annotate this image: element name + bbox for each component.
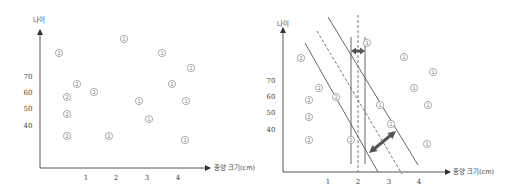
svg-text:2: 2 <box>307 97 310 103</box>
svg-text:2: 2 <box>307 137 310 143</box>
class-1-marker: 1 <box>187 64 194 71</box>
svg-text:2: 2 <box>299 55 302 61</box>
class-1-marker: 1 <box>387 120 394 127</box>
diagonal-margin-line-lower <box>305 43 378 172</box>
class-2-marker: 2 <box>63 110 70 117</box>
class-2-marker: 2 <box>305 96 312 103</box>
class-1-marker: 1 <box>423 140 430 147</box>
class-1-marker: 1 <box>363 39 370 46</box>
y-tick-label: 60 <box>267 93 276 101</box>
svg-text:1: 1 <box>378 102 381 108</box>
svg-text:2: 2 <box>334 94 337 100</box>
svg-text:1: 1 <box>402 54 405 60</box>
left-y-axis-label: 나이 <box>33 15 45 24</box>
svg-text:1: 1 <box>189 65 192 71</box>
svg-text:1: 1 <box>170 81 173 87</box>
class-2-marker: 2 <box>90 88 97 95</box>
svg-text:1: 1 <box>425 141 428 147</box>
x-tick-label: 4 <box>417 178 422 186</box>
class-1-marker: 1 <box>376 101 383 108</box>
y-tick-label: 40 <box>267 126 276 134</box>
svg-text:1: 1 <box>184 98 187 104</box>
x-tick-label: 4 <box>176 174 181 182</box>
svg-text:2: 2 <box>57 50 60 56</box>
y-tick-label: 70 <box>267 77 276 85</box>
left-points: 222222211111111 <box>55 35 194 143</box>
x-tick-label: 2 <box>114 174 118 182</box>
svg-text:1: 1 <box>160 50 163 56</box>
x-tick-label: 3 <box>387 178 391 186</box>
class-1-marker: 1 <box>120 35 127 42</box>
x-tick-label: 3 <box>145 174 149 182</box>
class-2-marker: 2 <box>347 136 354 143</box>
svg-text:1: 1 <box>412 85 415 91</box>
class-2-marker: 2 <box>305 113 312 120</box>
class-1-marker: 1 <box>158 49 165 56</box>
svg-text:2: 2 <box>317 85 320 91</box>
y-tick-label: 60 <box>24 89 33 97</box>
class-1-marker: 1 <box>429 68 436 75</box>
svg-text:2: 2 <box>307 114 310 120</box>
class-1-marker: 1 <box>400 53 407 60</box>
svg-text:2: 2 <box>65 111 68 117</box>
svg-text:2: 2 <box>107 133 110 139</box>
svg-text:2: 2 <box>75 81 78 87</box>
left-x-ticks: 1234 <box>84 174 181 182</box>
svg-text:1: 1 <box>183 137 186 143</box>
figure: 나이 종양 크기(cm) 70605040 1234 2222222111111… <box>0 0 519 196</box>
class-2-marker: 2 <box>73 80 80 87</box>
narrow-margin-arrow <box>351 48 365 55</box>
svg-text:2: 2 <box>349 137 352 143</box>
x-tick-label: 1 <box>326 178 330 186</box>
svg-text:2: 2 <box>92 89 95 95</box>
svg-text:1: 1 <box>365 40 368 46</box>
right-y-ticks: 70605040 <box>267 77 276 134</box>
svg-text:1: 1 <box>137 98 140 104</box>
diagonal-margin-line-upper <box>328 17 418 165</box>
class-1-marker: 1 <box>145 115 152 122</box>
right-points: 222222211111111 <box>297 39 436 147</box>
class-2-marker: 2 <box>63 93 70 100</box>
left-y-ticks: 70605040 <box>24 73 33 130</box>
class-1-marker: 1 <box>135 97 142 104</box>
x-tick-label: 1 <box>84 174 88 182</box>
class-1-marker: 1 <box>182 97 189 104</box>
svg-text:2: 2 <box>65 133 68 139</box>
left-x-axis-label: 종양 크기(cm) <box>214 163 255 172</box>
y-tick-label: 70 <box>24 73 33 81</box>
class-2-marker: 2 <box>63 132 70 139</box>
right-x-axis-label: 종양 크기(cm) <box>453 167 494 176</box>
svg-text:1: 1 <box>122 36 125 42</box>
class-2-marker: 2 <box>105 132 112 139</box>
class-2-marker: 2 <box>305 136 312 143</box>
class-2-marker: 2 <box>315 84 322 91</box>
class-1-marker: 1 <box>410 84 417 91</box>
y-tick-label: 40 <box>24 122 33 130</box>
class-1-marker: 1 <box>181 136 188 143</box>
class-2-marker: 2 <box>332 93 339 100</box>
y-tick-label: 50 <box>24 105 33 113</box>
class-2-marker: 2 <box>55 49 62 56</box>
right-y-axis-label: 나이 <box>277 19 289 28</box>
left-chart: 나이 종양 크기(cm) 70605040 1234 2222222111111… <box>24 15 256 182</box>
class-2-marker: 2 <box>297 54 304 61</box>
class-1-marker: 1 <box>168 80 175 87</box>
right-chart: 나이 종양 크기(cm) 70605040 1234 2222222111111… <box>267 15 495 186</box>
right-x-ticks: 1234 <box>326 178 422 186</box>
svg-text:2: 2 <box>65 94 68 100</box>
class-1-marker: 1 <box>424 101 431 108</box>
x-tick-label: 2 <box>356 178 360 186</box>
y-tick-label: 50 <box>267 109 276 117</box>
svg-text:1: 1 <box>431 69 434 75</box>
svg-text:1: 1 <box>389 121 392 127</box>
svg-text:1: 1 <box>147 116 150 122</box>
wide-margin-arrow <box>369 131 396 153</box>
svg-text:1: 1 <box>426 102 429 108</box>
